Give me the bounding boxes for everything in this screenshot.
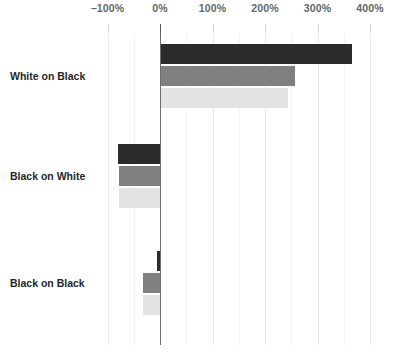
x-axis-tick-label: 300% [304,2,331,14]
x-axis-tick-label: 200% [251,2,278,14]
bar [118,144,160,164]
gridline-minor [344,33,345,345]
bar [119,188,160,208]
category-label: White on Black [0,70,112,82]
tick-mark [318,24,319,32]
tick-mark [160,24,161,33]
bar-chart: –100%0%100%200%300%400% White on BlackBl… [0,0,395,358]
bar [143,295,160,315]
x-axis-tick-label: 100% [199,2,226,14]
x-axis-tick-label: 400% [356,2,383,14]
category-label: Black on White [0,170,112,182]
x-axis-tick-label: 0% [152,2,167,14]
x-axis-tick-marks [0,24,395,33]
tick-mark [108,24,109,32]
gridline-major [370,33,371,345]
tick-mark [213,24,214,32]
bar [160,88,288,108]
category-label: Black on Black [0,277,112,289]
tick-mark [265,24,266,32]
bar [160,44,352,64]
tick-mark [370,24,371,32]
gridline-major [318,33,319,345]
bar [160,66,295,86]
x-axis-tick-label: –100% [91,2,124,14]
x-axis-tick-labels: –100%0%100%200%300%400% [0,0,395,24]
bar [143,273,160,293]
bar [119,166,160,186]
zero-axis-line [160,33,161,345]
